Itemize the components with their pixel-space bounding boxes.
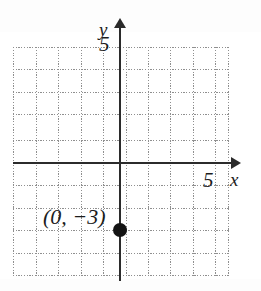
- plotted-point-coordinate-label: (0, −3): [43, 206, 106, 228]
- page-background-top: [0, 0, 261, 32]
- y-axis-tick-label-5: 5: [99, 34, 110, 55]
- y-axis-line: [119, 26, 121, 281]
- y-axis-arrow-icon: [114, 18, 126, 28]
- x-axis-label: x: [230, 170, 238, 189]
- grid-line-horizontal: [13, 275, 229, 276]
- grid-line-horizontal: [13, 92, 229, 93]
- grid-line-horizontal: [13, 114, 229, 115]
- grid-line-horizontal: [13, 253, 229, 254]
- page-background-bottom: [0, 279, 261, 291]
- coordinate-plane-figure: y x 5 5 (0, −3): [0, 0, 261, 291]
- x-axis-arrow-icon: [231, 157, 241, 169]
- grid-line-horizontal: [13, 185, 229, 186]
- plotted-point-marker: [113, 223, 127, 237]
- x-axis-tick-label-5: 5: [203, 170, 214, 191]
- grid-line-horizontal: [13, 69, 229, 70]
- grid-line-horizontal: [13, 140, 229, 141]
- x-axis-line: [13, 162, 235, 164]
- grid-line-horizontal: [13, 47, 229, 48]
